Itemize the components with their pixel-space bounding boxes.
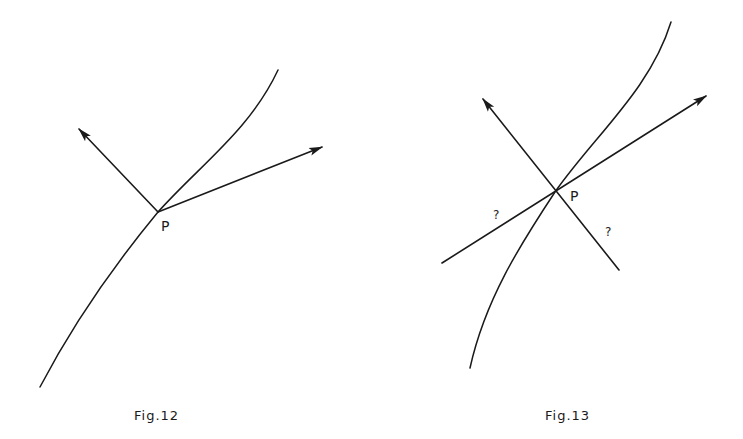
fig13-caption: Fig.13: [545, 408, 590, 423]
fig13-question-mark-tangent: ?: [493, 208, 499, 222]
fig12-point-label: P: [161, 218, 169, 234]
fig12-curve: [40, 70, 278, 387]
fig12-caption: Fig.12: [134, 408, 179, 423]
fig13-normal-line: [483, 99, 619, 270]
fig13-tangent-line: [442, 96, 706, 263]
fig13-question-mark-normal: ?: [605, 225, 611, 239]
diagram-canvas: P Fig.12 P ? ? Fig.13: [0, 0, 743, 439]
fig13-point-label: P: [570, 188, 578, 204]
figure-12: P Fig.12: [40, 70, 322, 423]
fig12-normal-arrow: [79, 129, 158, 212]
figure-13: P ? ? Fig.13: [442, 22, 706, 423]
fig12-tangent-arrow: [158, 147, 322, 212]
